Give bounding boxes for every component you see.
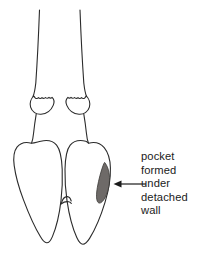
left-metacarpal-line — [33, 10, 40, 97]
right-metacarpal-line — [80, 10, 87, 97]
callout-line-4: detached — [141, 191, 210, 205]
left-dewclaw-stem — [32, 114, 37, 143]
callout-line-5: wall — [141, 204, 210, 218]
callout-line-3: under — [141, 177, 210, 191]
callout-line-1: pocket — [141, 150, 210, 164]
interdigital-bridge-base — [61, 202, 71, 204]
pocket-callout-label: pocket formed under detached wall — [141, 150, 210, 218]
left-dewclaw — [30, 96, 54, 114]
leader-arrow-head — [114, 181, 122, 188]
callout-line-2: formed — [141, 164, 210, 178]
line-art-group — [14, 10, 111, 244]
left-claw — [14, 141, 63, 243]
shaded-pocket-lesion — [97, 162, 110, 203]
figure-root: pocket formed under detached wall — [0, 0, 210, 266]
right-dewclaw-stem — [84, 114, 89, 143]
hoof-diagram-svg — [0, 0, 210, 266]
right-dewclaw — [66, 96, 90, 114]
